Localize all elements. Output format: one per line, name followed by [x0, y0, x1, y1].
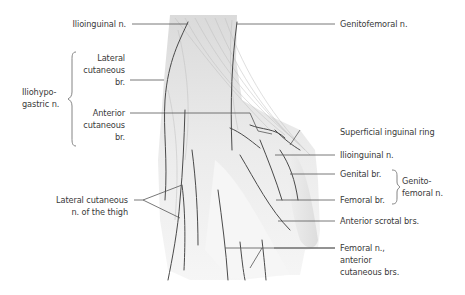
label-femoral-branch: Femoral br. [340, 194, 385, 206]
label-lateral-cutaneous-branch: Lateral cutaneous br. [70, 52, 125, 88]
label-ilioinguinal-nerve-top: Ilioinguinal n. [58, 18, 126, 30]
label-superficial-inguinal-ring: Superficial inguinal ring [340, 126, 435, 138]
label-femoral-anterior-cutaneous-branches: Femoral n., anterior cutaneous brs. [340, 242, 399, 278]
label-ilioinguinal-nerve-right: Ilioinguinal n. [340, 149, 393, 161]
label-genitofemoral-nerve: Genitofemoral n. [340, 18, 407, 30]
label-lateral-cutaneous-nerve-thigh: Lateral cutaneous n. of the thigh [30, 194, 128, 218]
label-genital-branch: Genital br. [340, 168, 381, 180]
label-anterior-scrotal-branches: Anterior scrotal brs. [340, 215, 419, 227]
label-iliohypogastric-nerve: Iliohypo- gastric n. [22, 86, 59, 110]
label-anterior-cutaneous-branch: Anterior cutaneous br. [70, 107, 125, 143]
label-genitofemoral-group: Genito- femoral n. [402, 175, 443, 199]
